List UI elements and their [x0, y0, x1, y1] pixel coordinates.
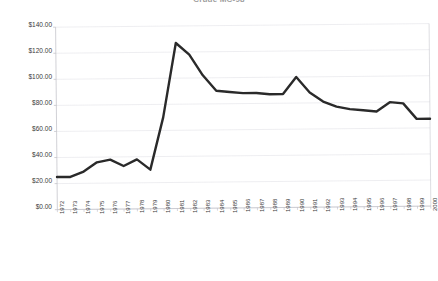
- x-axis-tick-label: 1986: [245, 199, 251, 212]
- x-axis-tick-label: 1981: [179, 200, 185, 213]
- x-axis-tick-label: 1991: [312, 198, 318, 211]
- x-axis-tick-label: 1990: [299, 199, 305, 212]
- x-axis-tick-label: 1974: [85, 201, 91, 214]
- x-axis-tick-label: 1975: [99, 200, 105, 213]
- x-axis-tick-label: 1996: [379, 198, 385, 211]
- x-axis-tick-label: 1995: [366, 198, 372, 211]
- x-axis-tick-label: 1985: [232, 199, 238, 212]
- x-axis-tick-label: 1998: [406, 197, 412, 210]
- x-axis-tick-label: 1987: [259, 199, 265, 212]
- x-axis-tick-label: 2000: [432, 197, 438, 210]
- x-axis-tick-label: 1999: [419, 197, 425, 210]
- x-axis-tick-label: 1997: [392, 198, 398, 211]
- x-axis-tick-label: 1972: [59, 201, 65, 214]
- x-axis-tick-label: 1973: [72, 201, 78, 214]
- x-axis-tick-label: 1984: [219, 199, 225, 212]
- x-axis-tick-label: 1989: [285, 199, 291, 212]
- x-axis-tick-label: 1978: [139, 200, 145, 213]
- line-chart: Crude MC-98 $140.00$120.00$100.00$80.00$…: [0, 0, 438, 281]
- x-axis-tick-label: 1982: [192, 200, 198, 213]
- x-axis-tick-label: 1980: [165, 200, 171, 213]
- x-axis-tick-label: 1988: [272, 199, 278, 212]
- x-axis-tick-label: 1992: [325, 198, 331, 211]
- x-axis-tick-label: 1977: [125, 200, 131, 213]
- x-axis-tick-label: 1979: [152, 200, 158, 213]
- x-axis-tick-label: 1983: [205, 199, 211, 212]
- x-axis-tick-label: 1976: [112, 200, 118, 213]
- x-axis-tick-labels: 1972197319741975197619771978197919801981…: [0, 0, 438, 281]
- x-axis-tick-label: 1993: [339, 198, 345, 211]
- x-axis-tick-label: 1994: [352, 198, 358, 211]
